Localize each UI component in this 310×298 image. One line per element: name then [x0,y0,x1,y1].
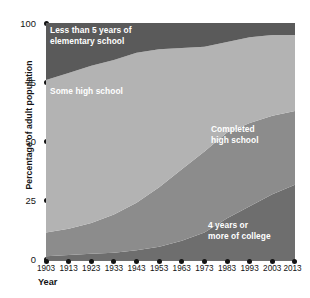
x-tick-dot-1933 [111,259,116,264]
x-axis-title: Year [38,277,57,287]
x-tick-label-2013: 2013 [278,265,308,273]
x-tick-dot-2003 [270,259,275,264]
x-axis-ticks: 1903 1913 1923 1933 1943 1953 1963 1973 … [0,0,310,298]
band-label-completed-high-school: Completed high school [211,124,259,146]
band-label-some-high-school: Some high school [50,86,123,97]
stacked-area-chart: Percentage of adult population 100 75 50… [0,0,310,298]
x-tick-dot-1903 [44,259,49,264]
band-label-college: 4 years or more of college [208,220,271,242]
x-tick-dot-1923 [89,259,94,264]
x-tick-dot-1953 [157,259,162,264]
x-tick-dot-2013 [292,259,297,264]
x-tick-dot-1983 [225,259,230,264]
x-tick-dot-1993 [247,259,252,264]
x-tick-dot-1973 [202,259,207,264]
x-tick-dot-1963 [179,259,184,264]
x-tick-dot-1913 [66,259,71,264]
band-label-elementary: Less than 5 years of elementary school [50,25,132,47]
x-tick-dot-1943 [134,259,139,264]
